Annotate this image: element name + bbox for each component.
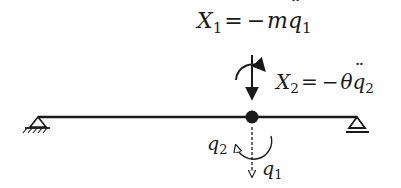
equals-sign: = [301, 70, 318, 94]
x2-symbol: X [276, 70, 290, 94]
mass-symbol: m [267, 8, 288, 33]
q2-symbol: q [207, 132, 219, 154]
dof-rotation-arc-icon [236, 136, 272, 159]
inertial-moment-label: X2=−θq2 [276, 70, 374, 94]
inertial-force-label: X1=−mq1 [197, 8, 312, 33]
mass-node-icon [246, 111, 259, 124]
q2-ddot-symbol: q [352, 70, 365, 94]
q1-ddot-symbol: q [288, 8, 302, 33]
equals-sign: = [224, 8, 242, 33]
x1-symbol: X [197, 8, 213, 33]
q1-label-subscript: 1 [274, 167, 282, 182]
minus-sign: − [247, 8, 265, 33]
dof-rotation-label: q2 [207, 132, 227, 154]
x1-subscript: 1 [213, 19, 223, 37]
inertial-moment-arc-icon [236, 65, 264, 80]
q1-subscript: 1 [302, 19, 312, 37]
q1-symbol: q [262, 157, 274, 179]
minus-sign: − [322, 70, 339, 94]
dof-translation-label: q1 [262, 157, 282, 179]
x2-subscript: 2 [290, 80, 299, 96]
q2-label-subscript: 2 [219, 142, 227, 157]
pin-support-icon [23, 117, 50, 133]
rotary-inertia-symbol: θ [340, 70, 352, 94]
roller-support-icon [346, 117, 369, 132]
q2-subscript: 2 [365, 80, 374, 96]
